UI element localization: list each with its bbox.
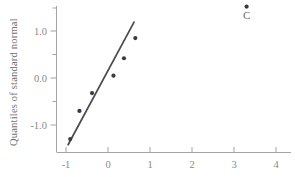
point-annotation-label: C xyxy=(243,9,250,21)
x-tick-label-3: 1 xyxy=(147,159,152,170)
y-tick-label-3: -1.0 xyxy=(30,120,47,131)
annotations-group: C xyxy=(243,9,250,21)
x-tick-label-1: -1 xyxy=(62,159,71,170)
data-point xyxy=(68,137,72,141)
data-point xyxy=(122,56,126,60)
data-point xyxy=(245,4,249,8)
plot-canvas: 1.0 0.0 -1.0 Quantiles of standard norma… xyxy=(0,0,295,177)
x-tick-label-5: 3 xyxy=(231,159,236,170)
y-axis-group: 1.0 0.0 -1.0 Quantiles of standard norma… xyxy=(8,6,57,152)
x-tick-label-4: 2 xyxy=(189,159,194,170)
x-tick-label-6: 4 xyxy=(273,159,279,170)
y-tick-label-1: 1.0 xyxy=(34,26,47,37)
data-points-group xyxy=(68,4,249,141)
y-axis-title: Quantiles of standard normal xyxy=(8,18,19,146)
qq-plot-figure: 1.0 0.0 -1.0 Quantiles of standard norma… xyxy=(0,0,295,177)
data-point xyxy=(90,91,94,95)
y-tick-label-2: 0.0 xyxy=(34,73,47,84)
x-axis-group: -1 0 1 2 3 4 xyxy=(57,147,292,170)
data-point xyxy=(133,36,137,40)
data-point xyxy=(111,74,115,78)
data-point xyxy=(77,109,81,113)
x-tick-label-2: 0 xyxy=(105,159,110,170)
fitted-reference-line xyxy=(68,22,134,145)
